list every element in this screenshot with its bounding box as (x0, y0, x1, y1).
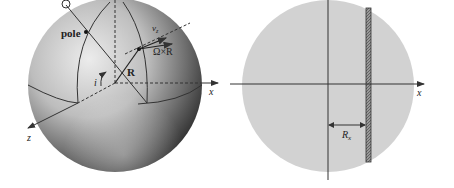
pole-label: pole (61, 27, 81, 39)
z-axis-label: z (26, 132, 31, 143)
disk-figure: x Rx (230, 0, 454, 188)
sphere-figure: pole R Ω×R vz i x z (0, 0, 230, 188)
inclination-label: i (94, 77, 97, 88)
projected-disk-diagram: x Rx (230, 0, 454, 188)
rotation-circle-icon (62, 0, 70, 8)
omega-cross-R-label: Ω×R (153, 46, 173, 57)
x-axis-label: x (208, 86, 214, 97)
velocity-strip (366, 8, 371, 162)
x-axis-label: x (416, 87, 422, 98)
rotating-sphere-diagram: pole R Ω×R vz i x z (0, 0, 230, 188)
R-label: R (127, 66, 136, 78)
pole-dot (84, 30, 88, 34)
